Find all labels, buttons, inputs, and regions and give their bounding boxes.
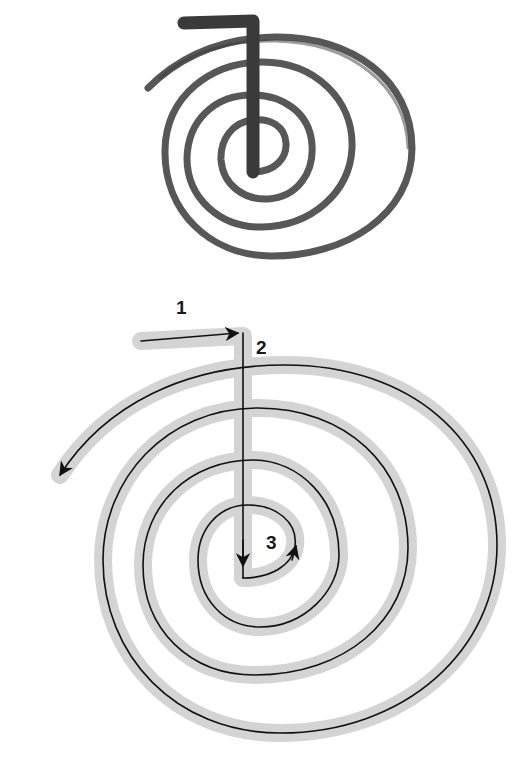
brush-spiral-stroke	[148, 37, 412, 256]
upper-brush-symbol	[148, 21, 412, 256]
step-3-label: 3	[266, 532, 277, 554]
diagram-canvas	[0, 0, 517, 770]
step-2-label: 2	[256, 337, 267, 359]
step-1-label: 1	[176, 297, 187, 319]
